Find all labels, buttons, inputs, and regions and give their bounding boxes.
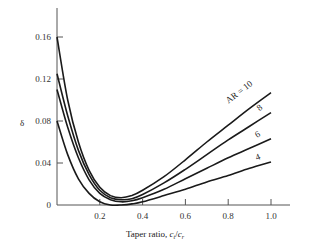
y-ticks: 00.040.080.120.16 [35, 32, 63, 210]
curve-label: 4 [254, 151, 262, 162]
y-tick-label: 0 [47, 200, 52, 210]
x-tick-label: 0.4 [137, 211, 149, 221]
x-tick-label: 0.6 [180, 211, 192, 221]
curves [57, 37, 271, 205]
y-axis-label: δ [20, 118, 24, 128]
taper-ratio-chart: 00.040.080.120.16 0.20.40.60.81.0 AR = 1… [0, 0, 327, 248]
curve-label: 8 [255, 102, 265, 113]
y-tick-label: 0.04 [35, 158, 51, 168]
curve-label: AR = 10 [224, 78, 255, 105]
y-tick-label: 0.16 [35, 32, 51, 42]
curve-ar-6 [57, 90, 271, 202]
curve-label: 6 [253, 129, 262, 140]
y-tick-label: 0.08 [35, 116, 51, 126]
y-tick-label: 0.12 [35, 74, 51, 84]
x-axis-label: Taper ratio, ct/cr [126, 229, 185, 240]
x-tick-label: 0.8 [223, 211, 235, 221]
x-tick-label: 1.0 [265, 211, 277, 221]
x-tick-label: 0.2 [94, 211, 105, 221]
